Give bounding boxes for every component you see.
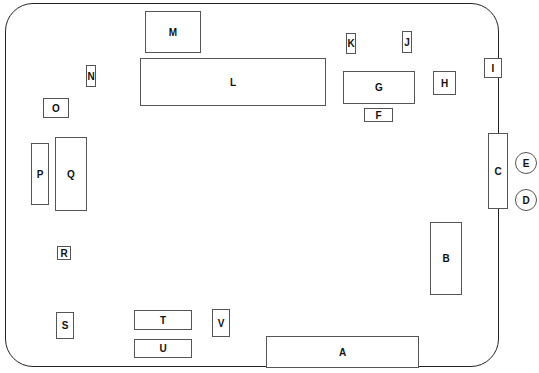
component-h: H [433, 71, 456, 95]
component-t: T [134, 310, 192, 330]
component-n: N [86, 65, 96, 87]
connector-e: E [515, 152, 537, 174]
component-f: F [364, 108, 393, 122]
component-s: S [56, 312, 74, 339]
component-m: M [145, 11, 201, 53]
component-r: R [57, 246, 71, 260]
component-v: V [212, 309, 230, 337]
component-a: A [266, 336, 419, 368]
component-l: L [140, 58, 326, 106]
component-p: P [31, 143, 49, 205]
connector-d: D [515, 189, 537, 211]
component-q: Q [55, 137, 87, 211]
component-k: K [346, 33, 356, 54]
component-g: G [343, 71, 415, 104]
component-u: U [134, 339, 192, 358]
component-i: I [484, 58, 502, 78]
component-j: J [402, 31, 412, 53]
component-b: B [430, 222, 462, 295]
component-c: C [488, 133, 508, 209]
component-o: O [43, 98, 69, 118]
